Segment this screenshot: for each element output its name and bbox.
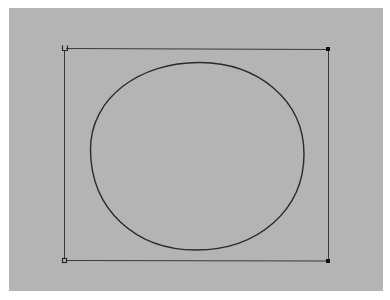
bottom-left-handle[interactable] [63,259,67,263]
bottom-right-handle[interactable] [326,259,330,263]
frame-bottom-edge[interactable] [67,261,328,262]
frame-top-edge[interactable] [66,49,328,50]
top-left-handle[interactable] [63,46,68,51]
canvas-layer [0,0,390,300]
top-right-handle[interactable] [326,47,330,51]
ellipse-shape[interactable] [90,62,304,250]
selection-frame[interactable] [65,49,329,262]
